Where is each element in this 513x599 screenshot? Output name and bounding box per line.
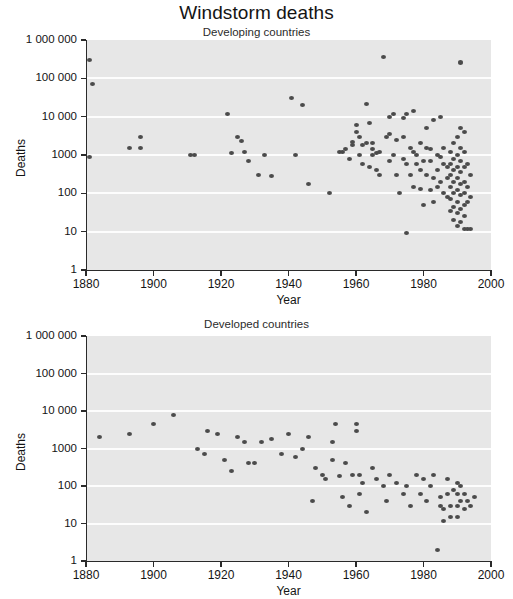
- data-point: [360, 162, 365, 166]
- data-point: [424, 126, 429, 130]
- data-point: [431, 473, 436, 477]
- y-tick-mark: [81, 523, 86, 524]
- y-tick-mark: [81, 485, 86, 486]
- windstorm-deaths-figure: Windstorm deaths Developing countries 11…: [0, 0, 513, 599]
- x-tick-label: 1900: [124, 278, 184, 290]
- data-point: [465, 185, 470, 189]
- data-point: [354, 123, 359, 127]
- data-point: [455, 200, 460, 204]
- plot-area: [86, 40, 491, 270]
- y-tick-label: 10 000: [42, 405, 77, 417]
- data-point: [411, 109, 416, 113]
- y-axis-line: [86, 336, 87, 562]
- data-point: [246, 159, 251, 163]
- data-point: [306, 435, 311, 439]
- data-point: [448, 504, 453, 508]
- data-point: [401, 492, 406, 496]
- data-point: [330, 440, 335, 444]
- data-point: [455, 224, 460, 228]
- x-tick-label: 1920: [191, 569, 251, 581]
- data-point: [431, 200, 436, 204]
- data-point: [455, 153, 460, 157]
- data-point: [391, 112, 396, 116]
- y-tick-label: 100 000: [35, 72, 77, 84]
- data-point: [320, 473, 325, 477]
- data-point: [414, 473, 419, 477]
- data-point: [354, 422, 359, 426]
- x-tick-label: 1880: [56, 569, 116, 581]
- data-point: [438, 155, 443, 159]
- data-point: [242, 440, 247, 444]
- x-tick-mark: [355, 562, 356, 567]
- data-point: [462, 492, 467, 496]
- data-point: [235, 135, 240, 139]
- data-point: [286, 432, 291, 436]
- data-point: [455, 176, 460, 180]
- data-point: [448, 150, 453, 154]
- data-point: [246, 461, 251, 465]
- gridline: [86, 154, 491, 156]
- data-point: [394, 138, 399, 142]
- data-point: [404, 484, 409, 488]
- data-point: [262, 153, 267, 157]
- gridline: [86, 116, 491, 118]
- data-point: [411, 185, 416, 189]
- data-point: [451, 141, 456, 145]
- data-point: [215, 432, 220, 436]
- data-point: [458, 170, 463, 174]
- y-tick-mark: [81, 116, 86, 117]
- data-point: [451, 218, 456, 222]
- data-point: [435, 185, 440, 189]
- data-point: [455, 492, 460, 496]
- data-point: [381, 484, 386, 488]
- data-point: [435, 548, 440, 552]
- y-tick-mark: [81, 448, 86, 449]
- y-tick-mark: [81, 373, 86, 374]
- data-point: [300, 103, 305, 107]
- data-point: [451, 168, 456, 172]
- data-point: [465, 162, 470, 166]
- data-point: [269, 437, 274, 441]
- data-point: [455, 515, 460, 519]
- data-point: [435, 168, 440, 172]
- data-point: [401, 157, 406, 161]
- data-point: [347, 504, 352, 508]
- data-point: [462, 507, 467, 511]
- data-point: [414, 153, 419, 157]
- data-point: [397, 191, 402, 195]
- data-point: [347, 157, 352, 161]
- y-tick-label: 1000: [51, 149, 77, 161]
- data-point: [350, 140, 355, 144]
- y-tick-mark: [81, 39, 86, 40]
- data-point: [367, 121, 372, 125]
- data-point: [448, 515, 453, 519]
- data-point: [401, 135, 406, 139]
- data-point: [354, 429, 359, 433]
- data-point: [428, 159, 433, 163]
- x-tick-mark: [490, 271, 491, 276]
- data-point: [401, 116, 406, 120]
- data-point: [421, 159, 426, 163]
- data-point: [259, 440, 264, 444]
- x-tick-label: 1880: [56, 278, 116, 290]
- data-point: [404, 162, 409, 166]
- data-point: [364, 510, 369, 514]
- data-point: [438, 180, 443, 184]
- data-point: [323, 477, 328, 481]
- gridline: [86, 373, 491, 375]
- data-point: [350, 473, 355, 477]
- y-tick-label: 1: [71, 264, 77, 276]
- data-point: [87, 155, 92, 159]
- data-point: [151, 422, 156, 426]
- data-point: [458, 499, 463, 503]
- x-tick-label: 1960: [326, 278, 386, 290]
- data-point: [343, 147, 348, 151]
- data-point: [424, 499, 429, 503]
- data-point: [306, 182, 311, 186]
- data-point: [451, 205, 456, 209]
- x-tick-mark: [355, 271, 356, 276]
- data-point: [448, 173, 453, 177]
- data-point: [455, 211, 460, 215]
- y-tick-mark: [81, 410, 86, 411]
- data-point: [225, 112, 230, 116]
